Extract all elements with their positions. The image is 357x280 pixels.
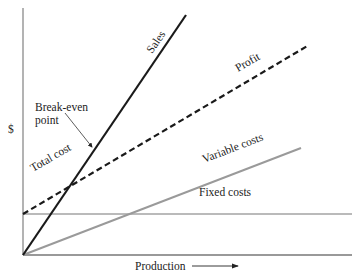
break-even-chart: $ Sales Profit Total cost Variable costs… [0, 0, 357, 280]
break-even-label-line2: point [35, 114, 59, 127]
break-even-label-line1: Break-even [35, 101, 88, 113]
x-axis-label: Production [135, 260, 186, 272]
y-axis-label: $ [8, 123, 14, 135]
sales-line [23, 15, 186, 255]
variable-costs-line [23, 148, 301, 255]
profit-label: Profit [233, 50, 262, 74]
break-even-pointer [65, 113, 92, 147]
fixed-costs-label: Fixed costs [199, 186, 252, 198]
sales-label: Sales [144, 28, 168, 55]
total-cost-label: Total cost [28, 141, 74, 174]
variable-costs-label: Variable costs [200, 130, 265, 164]
total-cost-line [23, 45, 309, 214]
